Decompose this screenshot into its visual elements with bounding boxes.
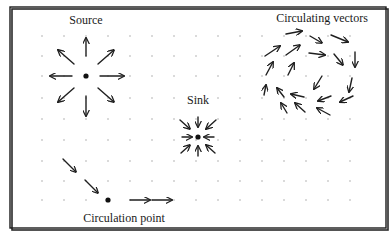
- arrow-icon: [85, 180, 98, 193]
- grid-dot: [261, 139, 262, 140]
- grid-dot: [305, 160, 306, 161]
- source-point: [83, 73, 88, 78]
- grid-dot: [41, 180, 42, 181]
- grid-dot: [305, 118, 306, 119]
- grid-dot: [151, 55, 152, 56]
- grid-dot: [327, 180, 328, 181]
- grid-dot: [261, 75, 262, 76]
- source-group: Source: [50, 13, 124, 116]
- grid-dot: [129, 55, 130, 56]
- grid-dot: [41, 75, 42, 76]
- arrow-icon: [291, 94, 304, 97]
- grid-dot: [41, 97, 42, 98]
- grid-dot: [173, 160, 174, 161]
- grid-dot: [173, 75, 174, 76]
- grid-dot: [261, 35, 262, 36]
- grid-dot: [41, 118, 42, 119]
- grid-dot: [63, 180, 64, 181]
- grid-dot: [107, 118, 108, 119]
- grid-dot: [349, 199, 350, 200]
- grid-dot: [327, 139, 328, 140]
- grid-dot: [239, 118, 240, 119]
- grid-dot: [63, 139, 64, 140]
- grid-dot: [305, 199, 306, 200]
- grid-dot: [327, 160, 328, 161]
- arrow-icon: [340, 96, 353, 102]
- arrow-icon: [309, 53, 325, 55]
- grid-dot: [129, 118, 130, 119]
- grid-dot: [217, 35, 218, 36]
- grid-dot: [349, 55, 350, 56]
- grid-dot: [85, 160, 86, 161]
- grid-dot: [217, 75, 218, 76]
- circulation-point: [105, 197, 110, 202]
- grid-dot: [151, 160, 152, 161]
- grid-dot: [349, 180, 350, 181]
- grid-dot: [305, 97, 306, 98]
- grid-dot: [195, 139, 196, 140]
- vector-field-diagram: Source Sink Circulating vectors Circulat…: [0, 0, 392, 238]
- grid-dot: [195, 55, 196, 56]
- arrow-icon: [58, 50, 74, 64]
- grid-dots: [41, 35, 350, 200]
- arrow-icon: [206, 145, 215, 153]
- grid-dot: [327, 199, 328, 200]
- circulating-group: Circulating vectors: [264, 11, 368, 115]
- grid-dot: [85, 139, 86, 140]
- grid-dot: [129, 97, 130, 98]
- grid-dot: [129, 139, 130, 140]
- arrow-icon: [295, 103, 305, 112]
- grid-dot: [283, 139, 284, 140]
- grid-dot: [327, 35, 328, 36]
- grid-dot: [173, 118, 174, 119]
- arrow-icon: [266, 62, 273, 75]
- grid-dot: [217, 199, 218, 200]
- arrow-icon: [181, 145, 190, 153]
- grid-dot: [195, 118, 196, 119]
- grid-dot: [195, 180, 196, 181]
- grid-dot: [151, 180, 152, 181]
- grid-dot: [239, 35, 240, 36]
- grid-dot: [41, 160, 42, 161]
- grid-dot: [195, 160, 196, 161]
- grid-dot: [195, 75, 196, 76]
- grid-dot: [217, 118, 218, 119]
- grid-dot: [239, 97, 240, 98]
- grid-dot: [239, 180, 240, 181]
- grid-dot: [217, 160, 218, 161]
- grid-dot: [129, 160, 130, 161]
- grid-dot: [173, 35, 174, 36]
- arrow-icon: [331, 35, 348, 42]
- arrow-icon: [281, 103, 287, 113]
- grid-dot: [349, 139, 350, 140]
- grid-dot: [63, 35, 64, 36]
- arrow-icon: [314, 76, 322, 89]
- grid-dot: [261, 180, 262, 181]
- grid-dot: [283, 180, 284, 181]
- grid-dot: [349, 75, 350, 76]
- grid-dot: [129, 180, 130, 181]
- grid-dot: [41, 35, 42, 36]
- grid-dot: [327, 55, 328, 56]
- grid-dot: [239, 199, 240, 200]
- grid-dot: [195, 199, 196, 200]
- grid-dot: [173, 139, 174, 140]
- arrow-icon: [265, 46, 280, 56]
- arrow-icon: [317, 108, 330, 115]
- grid-dot: [349, 118, 350, 119]
- arrow-icon: [98, 88, 114, 102]
- circulating-vectors: [264, 31, 355, 115]
- sink-group: Sink: [180, 93, 216, 156]
- grid-dot: [283, 75, 284, 76]
- grid-dot: [283, 55, 284, 56]
- grid-dot: [129, 35, 130, 36]
- grid-dot: [41, 199, 42, 200]
- grid-dot: [283, 35, 284, 36]
- grid-dot: [261, 55, 262, 56]
- grid-dot: [261, 97, 262, 98]
- grid-dot: [63, 199, 64, 200]
- grid-dot: [261, 118, 262, 119]
- grid-dot: [107, 180, 108, 181]
- circulating-vectors-label: Circulating vectors: [276, 11, 368, 25]
- grid-dot: [63, 118, 64, 119]
